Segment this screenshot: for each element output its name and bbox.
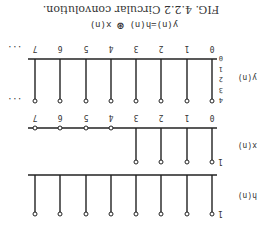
x-tick-label: 1 xyxy=(184,113,189,122)
stem-marker xyxy=(185,212,189,216)
y-tick-label: 2 xyxy=(219,75,223,83)
y-tick-label: 3 xyxy=(219,86,223,94)
x-tick-label: 5 xyxy=(83,113,88,122)
stem-marker xyxy=(84,126,88,130)
stem-marker xyxy=(159,212,163,216)
y-tick-label: 1 xyxy=(218,209,223,218)
stem-marker xyxy=(58,99,62,103)
x-tick-label: 2 xyxy=(158,113,163,122)
y-axis-label: x(n) xyxy=(238,141,257,150)
stem-marker xyxy=(33,212,37,216)
y-tick-label: 1 xyxy=(219,65,223,73)
stem-marker xyxy=(210,160,214,164)
x-tick-label: 3 xyxy=(133,44,138,53)
stem-marker xyxy=(185,99,189,103)
x-tick-label: 2 xyxy=(158,44,163,53)
x-tick-label: 1 xyxy=(184,44,189,53)
stem-marker xyxy=(84,99,88,103)
circular-convolution-figure: h(n)1x(n)101234567y(n)0123401234567.....… xyxy=(0,0,265,235)
y-tick-label: 4 xyxy=(219,96,223,104)
y-tick-label: 1 xyxy=(218,157,223,166)
x-tick-label: 4 xyxy=(108,44,113,53)
continuation-dots: ... xyxy=(8,96,22,105)
stem-marker xyxy=(185,160,189,164)
figure-caption: FIG. 4.2.2 Circular convolution. xyxy=(43,3,220,16)
stem-panel-hn: h(n)1 xyxy=(28,175,257,218)
x-tick-label: 5 xyxy=(83,44,88,53)
x-tick-label: 7 xyxy=(32,113,37,122)
y-axis-label: y(n) xyxy=(238,73,257,82)
stem-marker xyxy=(109,99,113,103)
x-tick-label: 6 xyxy=(57,113,62,122)
stem-marker xyxy=(58,212,62,216)
x-tick-label: 4 xyxy=(108,113,113,122)
stem-panel-xn: x(n)101234567 xyxy=(28,113,257,166)
x-tick-label: 3 xyxy=(133,113,138,122)
stem-marker xyxy=(33,99,37,103)
equation: y(n)=h(n) ⊛ x(n) xyxy=(90,19,179,33)
stem-marker xyxy=(109,212,113,216)
stem-marker xyxy=(134,212,138,216)
stem-panel-yn: y(n)0123401234567...... xyxy=(8,44,257,105)
stem-marker xyxy=(159,160,163,164)
circular-convolution-operator-icon: ⊛ xyxy=(117,19,124,33)
stem-marker xyxy=(109,126,113,130)
rotated-figure-group: h(n)1x(n)101234567y(n)0123401234567.....… xyxy=(8,3,257,218)
stem-panels: h(n)1x(n)101234567y(n)0123401234567.....… xyxy=(8,44,257,218)
continuation-dots: ... xyxy=(8,44,22,53)
stem-marker xyxy=(33,126,37,130)
stem-marker xyxy=(134,99,138,103)
stem-marker xyxy=(210,99,214,103)
x-tick-label: 7 xyxy=(32,44,37,53)
x-tick-label: 0 xyxy=(209,44,214,53)
stem-marker xyxy=(84,212,88,216)
x-tick-label: 6 xyxy=(57,44,62,53)
stem-marker xyxy=(210,212,214,216)
y-axis-label: h(n) xyxy=(238,191,257,200)
stem-marker xyxy=(58,126,62,130)
x-tick-label: 0 xyxy=(209,113,214,122)
y-tick-label: 0 xyxy=(219,54,223,62)
figure-canvas: h(n)1x(n)101234567y(n)0123401234567.....… xyxy=(0,0,265,235)
stem-marker xyxy=(134,160,138,164)
stem-marker xyxy=(159,99,163,103)
